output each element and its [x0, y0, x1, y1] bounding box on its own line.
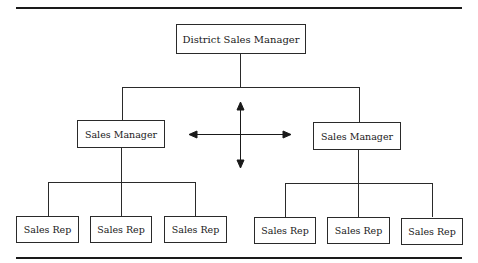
- sales-rep-box: Sales Rep: [254, 217, 316, 244]
- sales-manager-box-right: Sales Manager: [313, 122, 401, 150]
- box-label: Sales Manager: [85, 129, 157, 140]
- box-label: Sales Rep: [172, 224, 220, 235]
- sales-rep-box: Sales Rep: [16, 216, 79, 243]
- box-label: Sales Rep: [335, 225, 383, 236]
- sales-rep-box: Sales Rep: [164, 216, 227, 243]
- box-label: Sales Rep: [24, 224, 72, 235]
- sales-rep-box: Sales Rep: [90, 216, 152, 243]
- box-label: District Sales Manager: [182, 34, 299, 45]
- sales-manager-box-left: Sales Manager: [77, 120, 165, 148]
- box-label: Sales Rep: [261, 225, 309, 236]
- box-label: Sales Manager: [321, 131, 393, 142]
- box-label: Sales Rep: [408, 226, 456, 237]
- district-sales-manager-box: District Sales Manager: [176, 24, 306, 54]
- box-label: Sales Rep: [97, 224, 145, 235]
- sales-rep-box: Sales Rep: [327, 217, 390, 244]
- sales-rep-box: Sales Rep: [401, 218, 463, 245]
- four-way-arrow-icon: [189, 102, 291, 168]
